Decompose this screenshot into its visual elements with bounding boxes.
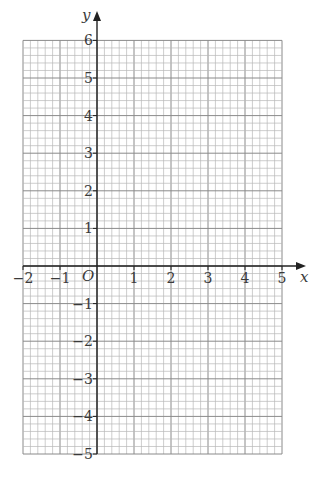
coordinate-grid: −2−112345654321−1−2−3−4−5 x y O xyxy=(0,0,325,484)
y-tick-label: 3 xyxy=(84,145,93,161)
y-tick-label: −5 xyxy=(72,446,93,462)
y-tick-label: 1 xyxy=(84,220,93,236)
y-tick-label: 4 xyxy=(84,108,93,124)
y-tick-label: 2 xyxy=(84,183,93,199)
y-tick-label: 5 xyxy=(84,70,93,86)
x-tick-label: 3 xyxy=(204,270,213,286)
graph-paper-grid xyxy=(23,40,282,454)
x-tick-label: −2 xyxy=(13,270,34,286)
y-axis-label: y xyxy=(81,6,91,24)
axes xyxy=(23,11,306,454)
x-tick-label: 5 xyxy=(278,270,287,286)
y-tick-label: −3 xyxy=(72,371,93,387)
x-axis-label: x xyxy=(300,268,309,286)
x-tick-label: 2 xyxy=(167,270,176,286)
x-tick-label: 4 xyxy=(241,270,250,286)
y-tick-label: −1 xyxy=(72,296,93,312)
x-tick-label: −1 xyxy=(50,270,71,286)
x-tick-label: 1 xyxy=(130,270,139,286)
origin-label: O xyxy=(82,267,94,285)
y-tick-label: −4 xyxy=(72,408,93,424)
y-tick-label: 6 xyxy=(84,32,93,48)
y-tick-label: −2 xyxy=(72,333,93,349)
y-axis-arrow-icon xyxy=(93,11,101,21)
